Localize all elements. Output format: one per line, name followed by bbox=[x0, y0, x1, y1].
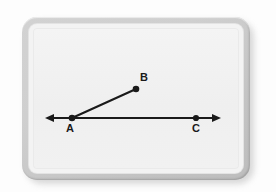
geometry-diagram: A B C bbox=[33, 28, 239, 169]
point-A-label: A bbox=[66, 122, 74, 134]
point-C-dot bbox=[193, 115, 199, 121]
point-C-label: C bbox=[192, 122, 200, 134]
point-B-label: B bbox=[140, 71, 148, 83]
point-B-dot bbox=[133, 86, 140, 93]
point-A-dot bbox=[69, 115, 76, 122]
arrowhead-right-icon bbox=[212, 114, 221, 122]
arrowhead-left-icon bbox=[45, 114, 54, 122]
whiteboard-panel: A B C bbox=[33, 28, 239, 169]
figure-canvas: A B C bbox=[0, 0, 276, 192]
segment-AB bbox=[72, 89, 136, 118]
